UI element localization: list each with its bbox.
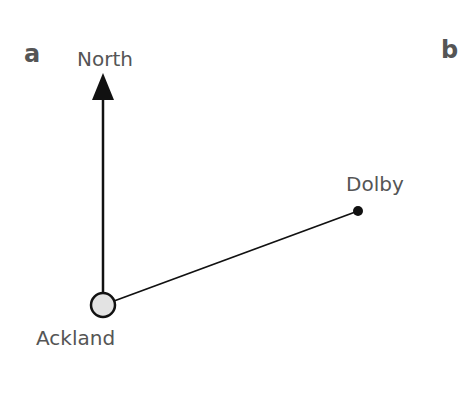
dolby-point (353, 206, 363, 216)
north-label: North (77, 49, 133, 69)
ackland-point (91, 293, 115, 317)
ackland-label: Ackland (36, 328, 115, 348)
dolby-label: Dolby (346, 174, 404, 194)
ackland-dolby-line (114, 211, 358, 301)
north-arrow-head-icon (92, 73, 114, 100)
